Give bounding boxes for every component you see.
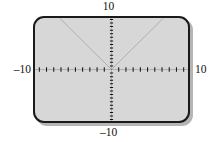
graph-plot-area: [35, 18, 188, 121]
y-axis-min-label: –10: [0, 127, 216, 139]
calculator-screen: [33, 16, 190, 123]
x-axis-min-label: –10: [2, 64, 31, 76]
y-axis-max-label: 10: [0, 1, 216, 13]
x-axis-max-label: 10: [195, 64, 216, 76]
graphing-calculator-figure: 10 –10 –10 10: [0, 0, 216, 142]
